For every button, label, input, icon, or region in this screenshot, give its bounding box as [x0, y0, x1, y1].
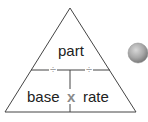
part-label: part	[58, 43, 84, 58]
base-label: base	[27, 89, 60, 104]
divide-symbol-right: ÷	[85, 64, 93, 75]
divide-symbol-left: ÷	[49, 64, 57, 75]
multiply-symbol: x	[66, 89, 76, 104]
rate-label: rate	[83, 89, 109, 104]
circle-button-icon[interactable]	[128, 43, 148, 63]
